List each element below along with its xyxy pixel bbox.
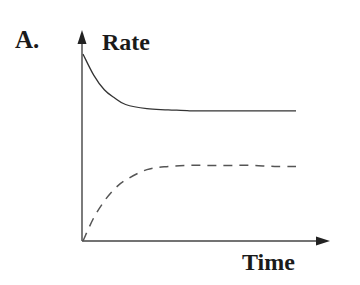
solid-rate-curve	[83, 54, 296, 111]
y-axis-arrow-icon	[78, 30, 87, 44]
axes	[78, 30, 331, 246]
x-axis-arrow-icon	[316, 237, 330, 246]
dashed-rate-curve	[83, 165, 296, 241]
chart-canvas	[0, 0, 360, 285]
